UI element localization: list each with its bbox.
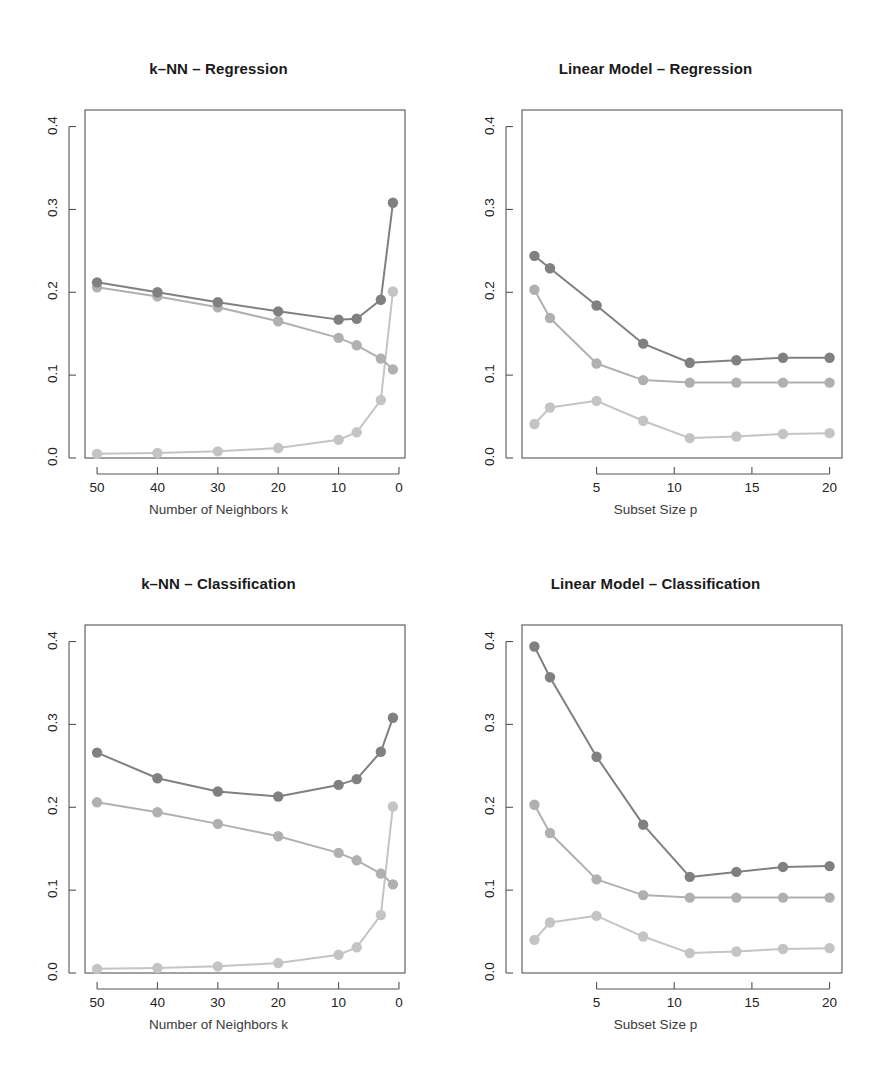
data-point — [273, 306, 283, 316]
series-dark — [529, 641, 835, 882]
data-point — [388, 879, 398, 889]
series-light — [92, 801, 398, 974]
data-point — [778, 353, 788, 363]
data-point — [376, 868, 386, 878]
data-point — [352, 942, 362, 952]
data-point — [213, 961, 223, 971]
y-tick-label: 0.0 — [482, 957, 497, 987]
y-tick-label: 0.2 — [482, 791, 497, 821]
series-mid — [92, 282, 398, 374]
chart-canvas — [0, 555, 437, 1025]
x-tick-label: 40 — [132, 995, 182, 1010]
x-tick-label: 50 — [72, 480, 122, 495]
series-mid — [529, 285, 835, 388]
series-line — [97, 802, 393, 884]
data-point — [273, 443, 283, 453]
x-axis-label: Subset Size p — [437, 1017, 874, 1032]
data-point — [778, 429, 788, 439]
y-tick-label: 0.1 — [45, 359, 60, 389]
y-tick-label: 0.1 — [482, 874, 497, 904]
data-point — [388, 713, 398, 723]
plot-frame — [85, 625, 405, 973]
data-point — [824, 892, 834, 902]
series-line — [534, 290, 829, 383]
data-point — [638, 338, 648, 348]
data-point — [638, 819, 648, 829]
series-light — [92, 286, 398, 459]
data-point — [545, 402, 555, 412]
y-tick-label: 0.4 — [482, 110, 497, 140]
x-tick-label: 5 — [572, 480, 622, 495]
y-tick-label: 0.4 — [45, 625, 60, 655]
data-point — [778, 892, 788, 902]
data-point — [545, 672, 555, 682]
chart-canvas — [437, 555, 874, 1025]
data-point — [545, 828, 555, 838]
x-tick-label: 30 — [193, 480, 243, 495]
data-point — [638, 416, 648, 426]
data-point — [591, 911, 601, 921]
data-point — [333, 314, 343, 324]
figure-root: k–NN – Regression 0.00.10.20.30.45040302… — [0, 0, 874, 1086]
series-line — [97, 203, 393, 320]
series-light — [529, 911, 835, 959]
panel-knn-regression: k–NN – Regression 0.00.10.20.30.45040302… — [0, 40, 437, 540]
data-point — [685, 948, 695, 958]
data-point — [333, 848, 343, 858]
y-tick-label: 0.0 — [45, 442, 60, 472]
data-point — [376, 295, 386, 305]
data-point — [92, 449, 102, 459]
data-point — [529, 251, 539, 261]
data-point — [273, 316, 283, 326]
panel-knn-classification: k–NN – Classification 0.00.10.20.30.4504… — [0, 555, 437, 1055]
data-point — [685, 872, 695, 882]
series-line — [97, 806, 393, 968]
data-point — [591, 396, 601, 406]
data-point — [731, 892, 741, 902]
data-point — [731, 431, 741, 441]
x-tick-label: 10 — [314, 480, 364, 495]
data-point — [92, 277, 102, 287]
x-axis-label: Subset Size p — [437, 502, 874, 517]
data-point — [152, 807, 162, 817]
x-tick-label: 20 — [253, 480, 303, 495]
data-point — [731, 377, 741, 387]
y-tick-label: 0.2 — [482, 276, 497, 306]
data-point — [352, 314, 362, 324]
data-point — [529, 285, 539, 295]
x-tick-label: 15 — [727, 480, 777, 495]
data-point — [685, 433, 695, 443]
x-tick-label: 0 — [374, 995, 424, 1010]
data-point — [778, 377, 788, 387]
chart-canvas — [437, 40, 874, 510]
data-point — [376, 747, 386, 757]
y-tick-label: 0.1 — [45, 874, 60, 904]
plot-area: 0.00.10.20.30.450403020100 — [0, 555, 437, 1025]
data-point — [529, 419, 539, 429]
data-point — [352, 340, 362, 350]
data-point — [152, 773, 162, 783]
data-point — [352, 855, 362, 865]
x-tick-label: 10 — [649, 480, 699, 495]
y-tick-label: 0.4 — [45, 110, 60, 140]
data-point — [388, 801, 398, 811]
plot-frame — [85, 110, 405, 458]
y-tick-label: 0.2 — [45, 791, 60, 821]
series-dark — [92, 713, 398, 802]
data-point — [778, 944, 788, 954]
series-dark — [529, 251, 835, 368]
series-mid — [529, 800, 835, 903]
data-point — [824, 943, 834, 953]
y-tick-label: 0.3 — [482, 708, 497, 738]
data-point — [824, 428, 834, 438]
data-point — [376, 910, 386, 920]
data-point — [731, 946, 741, 956]
x-axis-label: Number of Neighbors k — [0, 1017, 437, 1032]
panel-lm-regression: Linear Model – Regression 0.00.10.20.30.… — [437, 40, 874, 540]
data-point — [731, 867, 741, 877]
chart-canvas — [0, 40, 437, 510]
x-tick-label: 20 — [253, 995, 303, 1010]
data-point — [92, 747, 102, 757]
y-tick-label: 0.0 — [45, 957, 60, 987]
data-point — [273, 958, 283, 968]
